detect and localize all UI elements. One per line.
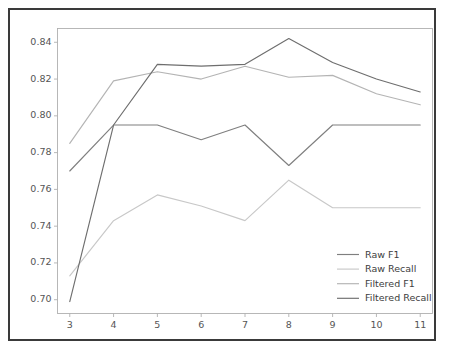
x-tick-label: 7 [225, 319, 265, 330]
figure-canvas: 0.700.720.740.760.780.800.820.84 3456789… [0, 0, 453, 357]
x-tick-label: 3 [50, 319, 90, 330]
x-tick-label: 8 [269, 319, 309, 330]
legend-label-filtered-f1: Filtered F1 [365, 278, 415, 289]
y-tick-label: 0.72 [30, 256, 51, 267]
x-tick-label: 5 [137, 319, 177, 330]
y-tick-label: 0.74 [30, 220, 51, 231]
x-tick-label: 4 [94, 319, 134, 330]
y-tick-label: 0.84 [30, 36, 51, 47]
legend-label-raw-recall: Raw Recall [365, 263, 416, 274]
series-line-filtered-recall [70, 39, 420, 302]
x-tick-label: 9 [313, 319, 353, 330]
x-tick-label: 6 [181, 319, 221, 330]
legend-label-raw-f1: Raw F1 [365, 249, 400, 260]
x-tick-label: 10 [356, 319, 396, 330]
series-line-raw-recall [70, 180, 420, 276]
legend-label-filtered-recall: Filtered Recall [365, 292, 432, 303]
y-tick-label: 0.80 [30, 109, 51, 120]
y-tick-label: 0.76 [30, 183, 51, 194]
y-tick-label: 0.78 [30, 146, 51, 157]
series-line-filtered-f1 [70, 66, 420, 143]
y-tick-label: 0.70 [30, 293, 51, 304]
series-line-raw-f1 [70, 125, 420, 171]
x-tick-label: 11 [400, 319, 440, 330]
y-tick-label: 0.82 [30, 73, 51, 84]
line-chart-plot [0, 0, 453, 357]
